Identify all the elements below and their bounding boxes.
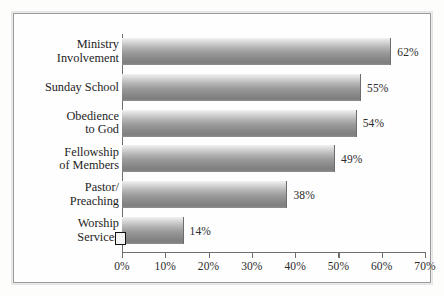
bar-row: Pastor/Preaching38% — [122, 177, 425, 213]
bar-row: Fellowshipof Members49% — [122, 141, 425, 177]
bar-value-label: 49% — [341, 153, 362, 165]
category-label-line: Preaching — [70, 195, 119, 209]
x-axis-tick-label: 0% — [114, 260, 130, 272]
x-axis-tick-label: 10% — [155, 260, 176, 272]
bar-fill — [122, 145, 335, 172]
bar-row: MinistryInvolvement62% — [122, 34, 425, 70]
category-label: Pastor/Preaching — [23, 177, 119, 213]
plot-area: MinistryInvolvement62%Sunday School55%Ob… — [122, 34, 425, 249]
category-label-line: Ministry — [77, 38, 119, 52]
bar-value-label: 55% — [367, 82, 388, 94]
x-axis-tick — [425, 253, 426, 258]
category-label: Obedienceto God — [23, 106, 119, 142]
x-axis-tick — [382, 253, 383, 258]
bar-row: Sunday School55% — [122, 70, 425, 106]
x-axis-tick — [338, 253, 339, 258]
bar — [122, 74, 360, 101]
bar — [122, 110, 356, 137]
category-label-line: Sunday School — [45, 81, 119, 95]
category-label: Sunday School — [23, 70, 119, 106]
category-label-line: Involvement — [57, 52, 119, 66]
category-label-line: Pastor/ — [85, 181, 119, 195]
bar — [122, 217, 183, 244]
category-label: Fellowshipof Members — [23, 141, 119, 177]
category-label-line: Obedience — [66, 110, 119, 124]
x-axis-line — [122, 252, 426, 253]
bar — [122, 181, 286, 208]
category-label-line: of Members — [59, 159, 119, 173]
x-axis-tick — [165, 253, 166, 258]
bar-fill — [122, 217, 184, 244]
x-axis-tick — [209, 253, 210, 258]
x-axis-tick-label: 20% — [198, 260, 219, 272]
bar-fill — [122, 110, 357, 137]
category-label: WorshipServices — [23, 213, 119, 249]
category-label: MinistryInvolvement — [23, 34, 119, 70]
category-label-line: Fellowship — [64, 146, 119, 160]
x-axis-tick-label: 40% — [284, 260, 305, 272]
bar-value-label: 54% — [363, 117, 384, 129]
category-label-line: Services — [77, 231, 119, 245]
x-axis-tick-label: 50% — [328, 260, 349, 272]
bar-fill — [122, 74, 361, 101]
x-axis-tick — [122, 253, 123, 258]
bar — [122, 145, 334, 172]
bar-value-label: 14% — [190, 225, 211, 237]
bar-row: WorshipServices14% — [122, 213, 425, 249]
x-axis-tick-label: 30% — [241, 260, 262, 272]
chart-frame: MinistryInvolvement62%Sunday School55%Ob… — [13, 13, 431, 283]
x-axis-tick — [295, 253, 296, 258]
bar — [122, 38, 390, 65]
x-axis-tick-label: 70% — [414, 260, 435, 272]
bar-row: Obedienceto God54% — [122, 106, 425, 142]
x-axis-tick-label: 60% — [371, 260, 392, 272]
category-label-line: Worship — [78, 217, 119, 231]
bar-fill — [122, 181, 287, 208]
bar-value-label: 38% — [293, 189, 314, 201]
origin-square-marker — [115, 232, 126, 245]
category-label-line: to God — [85, 123, 119, 137]
bar-value-label: 62% — [397, 46, 418, 58]
scan-page-background: MinistryInvolvement62%Sunday School55%Ob… — [0, 0, 444, 296]
bar-fill — [122, 38, 391, 65]
x-axis-tick — [252, 253, 253, 258]
